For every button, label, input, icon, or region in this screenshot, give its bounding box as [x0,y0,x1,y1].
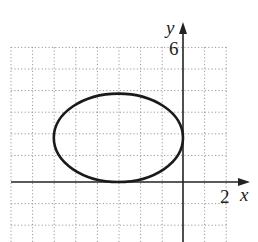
x-tick-2: 2 [220,186,230,207]
graph: y 6 2 x [0,0,258,242]
axes [11,30,243,242]
x-axis-label: x [239,184,249,205]
y-axis-arrow-icon [179,22,187,34]
y-tick-6: 6 [169,38,179,59]
grid [11,47,227,242]
ellipse-curve [54,94,183,182]
y-axis-label: y [164,17,175,38]
